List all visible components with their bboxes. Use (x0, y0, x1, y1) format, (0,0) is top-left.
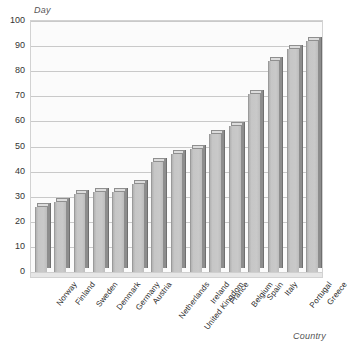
bar-side-face (318, 37, 322, 268)
bar (190, 145, 202, 272)
bar-top-face (192, 145, 204, 149)
bar (171, 150, 183, 272)
bar-front-face (268, 61, 280, 272)
y-axis-title: Day (34, 5, 51, 15)
bar-front-face (151, 162, 163, 272)
bar (229, 122, 241, 272)
bar-side-face (260, 90, 264, 268)
bar-side-face (221, 130, 225, 268)
bar-top-face (289, 45, 301, 49)
bar-top-face (231, 122, 243, 126)
y-axis-tick-label: 60 (0, 115, 25, 125)
bar-top-face (114, 188, 126, 192)
bar-top-face (308, 37, 320, 41)
bar-front-face (35, 207, 47, 272)
bar (248, 90, 260, 272)
bar-top-face (173, 150, 185, 154)
x-axis-title: Country (293, 331, 326, 341)
plot-area (30, 20, 323, 278)
bar-side-face (299, 45, 303, 268)
bar-side-face (279, 57, 283, 268)
bar-front-face (112, 192, 124, 272)
bar-top-face (270, 57, 282, 61)
y-axis-tick-label: 20 (0, 216, 25, 226)
bar-front-face (54, 202, 66, 272)
y-axis-tick-label: 10 (0, 241, 25, 251)
bar-top-face (250, 90, 262, 94)
bar-top-face (153, 158, 165, 162)
bar (93, 188, 105, 272)
bar-side-face (124, 188, 128, 268)
x-axis-ticks: NorwayFinlandSwedenDenmarkGermanyAustria… (30, 278, 323, 348)
bar-front-face (74, 194, 86, 272)
bar (132, 180, 144, 272)
bar-side-face (105, 188, 109, 268)
bar-top-face (211, 130, 223, 134)
bar (35, 203, 47, 272)
x-axis-tick-label: Norway (54, 280, 78, 307)
bar-side-face (66, 198, 70, 268)
bar-top-face (95, 188, 107, 192)
x-axis-tick-label: Netherlands (177, 280, 211, 320)
bar-side-face (182, 150, 186, 268)
bar-front-face (306, 41, 318, 272)
x-axis-tick-label: Italy (282, 280, 298, 297)
bar-front-face (171, 154, 183, 272)
bar-side-face (241, 122, 245, 268)
bars-container (31, 21, 322, 272)
bar-side-face (202, 145, 206, 268)
bar-top-face (56, 198, 68, 202)
bar-top-face (37, 203, 49, 207)
bar-top-face (134, 180, 146, 184)
bar (287, 45, 299, 272)
bar (268, 57, 280, 272)
bar (54, 198, 66, 272)
bar-side-face (144, 180, 148, 268)
bar-front-face (287, 49, 299, 272)
y-axis-tick-label: 0 (0, 266, 25, 276)
y-axis-tick-label: 50 (0, 141, 25, 151)
y-axis-tick-label: 90 (0, 40, 25, 50)
bar-front-face (190, 149, 202, 272)
bar (209, 130, 221, 272)
bar-side-face (85, 190, 89, 268)
bar-front-face (93, 192, 105, 272)
bar (74, 190, 86, 272)
bar-top-face (76, 190, 88, 194)
bar-side-face (47, 203, 51, 268)
bar (151, 158, 163, 272)
y-axis-tick-label: 40 (0, 166, 25, 176)
y-axis-tick-label: 100 (0, 15, 25, 25)
bar-front-face (209, 134, 221, 272)
y-axis-tick-label: 80 (0, 65, 25, 75)
bar-front-face (132, 184, 144, 272)
y-axis-tick-label: 70 (0, 90, 25, 100)
bar (112, 188, 124, 272)
bar-front-face (248, 94, 260, 272)
bar (306, 37, 318, 272)
bar-front-face (229, 126, 241, 272)
y-axis-tick-label: 30 (0, 191, 25, 201)
plot-floor (31, 272, 322, 277)
bar-side-face (163, 158, 167, 268)
